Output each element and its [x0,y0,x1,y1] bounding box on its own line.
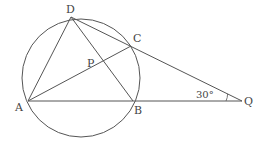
geometry-diagram: D C P A B Q 30° [0,0,264,145]
point-label-B: B [134,104,142,117]
point-label-A: A [14,101,24,114]
angle-label-Q: 30° [196,89,214,100]
angle-arc-Q [226,94,228,101]
segment-AC [28,46,131,101]
segment-DB [71,17,133,101]
segment-DA [28,17,71,101]
point-label-Q: Q [244,95,253,108]
segment-DQ [71,17,242,101]
point-label-P: P [87,57,95,70]
point-label-D: D [66,3,75,16]
point-label-C: C [133,32,141,45]
